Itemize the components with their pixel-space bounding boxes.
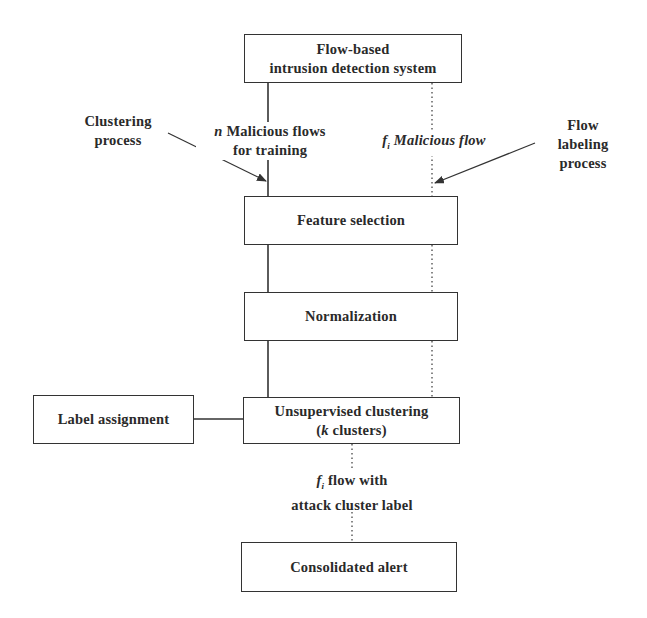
flow-labeling-line2: labeling bbox=[538, 135, 628, 154]
node-clustering-line2: (k clusters) bbox=[316, 421, 386, 440]
node-consolidated-alert: Consolidated alert bbox=[241, 542, 457, 592]
node-ids: Flow-based intrusion detection system bbox=[244, 34, 462, 83]
attack-label-line1: fi flow with bbox=[270, 471, 434, 496]
annotation-attack-label-flow: fi flow with attack cluster label bbox=[270, 471, 434, 515]
node-clustering-line1: Unsupervised clustering bbox=[274, 402, 428, 421]
node-normalization: Normalization bbox=[244, 292, 458, 341]
node-consolidated-alert-label: Consolidated alert bbox=[290, 558, 408, 577]
annotation-clustering-process: Clustering process bbox=[68, 112, 168, 150]
training-flows-line1: n Malicious flows bbox=[196, 122, 344, 141]
node-feature-selection: Feature selection bbox=[244, 196, 458, 245]
flow-labeling-line1: Flow bbox=[538, 116, 628, 135]
clustering-process-line1: Clustering bbox=[68, 112, 168, 131]
node-ids-line2: intrusion detection system bbox=[269, 59, 436, 78]
training-flows-text: Malicious flows bbox=[223, 123, 326, 139]
training-flows-line2: for training bbox=[196, 141, 344, 160]
malicious-flow-text: Malicious flow bbox=[390, 132, 486, 148]
flow-labeling-line3: process bbox=[538, 154, 628, 173]
node-label-assignment: Label assignment bbox=[33, 395, 194, 444]
clusters-text: clusters) bbox=[329, 422, 387, 438]
node-label-assignment-label: Label assignment bbox=[58, 410, 170, 429]
node-normalization-label: Normalization bbox=[305, 307, 397, 326]
attack-label-text: flow with bbox=[324, 472, 387, 488]
n-variable: n bbox=[214, 123, 222, 139]
node-clustering: Unsupervised clustering (k clusters) bbox=[243, 397, 460, 444]
annotation-malicious-flow: fi Malicious flow bbox=[373, 131, 495, 156]
k-variable: k bbox=[321, 422, 328, 438]
attack-label-line2: attack cluster label bbox=[270, 496, 434, 515]
clustering-process-line2: process bbox=[68, 131, 168, 150]
annotation-training-flows: n Malicious flows for training bbox=[196, 122, 344, 160]
annotation-flow-labeling-process: Flow labeling process bbox=[538, 116, 628, 173]
node-feature-selection-label: Feature selection bbox=[297, 211, 405, 230]
node-ids-line1: Flow-based bbox=[317, 40, 390, 59]
